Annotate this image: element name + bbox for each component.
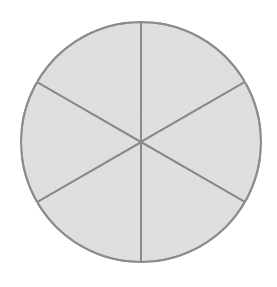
- pie-chart-svg: Sector 1Sector 2Sector 3Sector 4Sector 5…: [0, 0, 277, 287]
- pie-chart: Sector 1Sector 2Sector 3Sector 4Sector 5…: [0, 0, 277, 287]
- pie-slices: Sector 1Sector 2Sector 3Sector 4Sector 5…: [21, 22, 261, 262]
